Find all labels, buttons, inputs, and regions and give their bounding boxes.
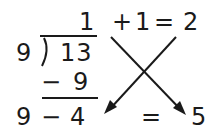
diagram-lines <box>0 0 213 134</box>
arrow-down-right <box>111 37 182 111</box>
arrow-down-left <box>109 37 176 110</box>
division-bracket <box>40 36 97 66</box>
